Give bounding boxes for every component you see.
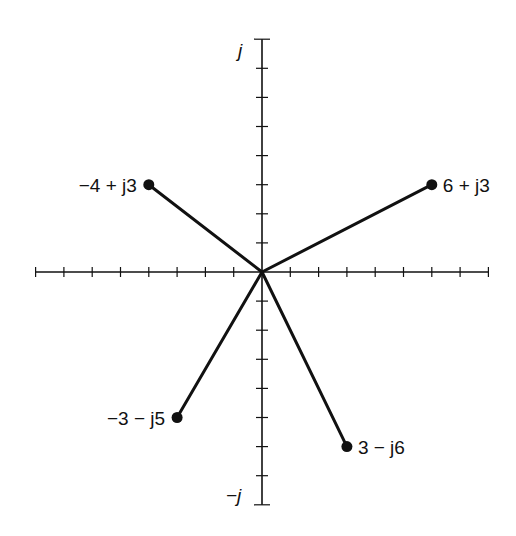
phasor-line: [177, 272, 262, 418]
complex-plane-diagram: j−j−4 + j36 + j3−3 − j53 − j6: [0, 0, 516, 536]
phasor-label: −4 + j3: [79, 175, 137, 196]
phasor-vectors: [143, 179, 437, 452]
phasor-endpoint-dot: [426, 179, 437, 190]
phasor-line: [262, 185, 432, 272]
imaginary-axis-top-label: j: [235, 40, 243, 61]
phasor-line: [262, 272, 347, 447]
phasor-endpoint-dot: [341, 441, 352, 452]
phasor-endpoint-dot: [143, 179, 154, 190]
phasor-label: 3 − j6: [358, 437, 405, 458]
labels: j−j−4 + j36 + j3−3 − j53 − j6: [79, 40, 490, 506]
phasor-endpoint-dot: [172, 412, 183, 423]
phasor-label: 6 + j3: [443, 175, 490, 196]
imaginary-axis-bottom-label: −j: [226, 485, 242, 506]
phasor-label: −3 − j5: [107, 408, 165, 429]
phasor-line: [149, 185, 262, 272]
